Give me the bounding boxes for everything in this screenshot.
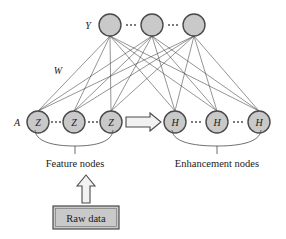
feature-node-2-label: Z [71,117,77,128]
edge-h1-y3 [175,36,194,111]
enhancement-node-1-label: H [170,117,179,128]
feature-to-enhancement-arrow-icon [126,113,161,131]
raw-data-box[interactable]: Raw data [53,206,119,229]
edge-h3-y3 [194,36,259,111]
edge-h1-y1 [110,36,175,111]
enhancement-layer-nodes: H H H [164,111,270,133]
output-ellipsis-1 [126,24,136,26]
feature-node-1-label: Z [35,117,41,128]
enhancement-nodes-group-label: Enhancement nodes [175,158,259,169]
feature-layer-label: A [13,117,21,128]
edge-z2-y2 [74,36,152,111]
diagram-canvas: Y W A Z Z [0,0,286,239]
output-layer-label: Y [85,20,92,31]
raw-data-to-feature-arrow-icon [77,175,95,203]
output-ellipsis-2 [168,24,178,26]
edge-z3-y3 [111,36,194,111]
edge-group-weights [38,36,259,111]
edge-z3-y1 [110,36,111,111]
enhancement-ellipsis-2 [233,121,243,123]
feature-node-3-label: Z [108,117,114,128]
output-node-2[interactable] [141,14,163,36]
feature-ellipsis-2 [88,121,98,123]
edge-z1-y1 [38,36,110,111]
feature-nodes-group-label: Feature nodes [46,158,105,169]
output-node-3[interactable] [183,14,205,36]
enhancement-ellipsis-1 [191,121,201,123]
output-layer-nodes [99,14,205,36]
output-node-1[interactable] [99,14,121,36]
feature-layer-nodes: Z Z Z [27,111,122,133]
weight-matrix-label: W [54,65,64,76]
raw-data-box-label: Raw data [66,213,106,224]
enhancement-node-3-label: H [254,117,263,128]
edge-z3-y2 [111,36,152,111]
feature-ellipsis-1 [51,121,61,123]
broad-learning-system-diagram: Y W A Z Z [0,0,286,239]
enhancement-node-2-label: H [212,117,221,128]
edge-h1-y2 [152,36,175,111]
edge-h2-y3 [194,36,217,111]
